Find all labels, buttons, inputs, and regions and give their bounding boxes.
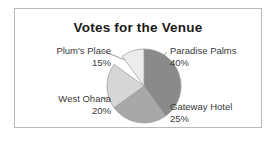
pie-label-west-ohana-name: West Ohana <box>17 93 111 105</box>
pie-label-gateway-hotel-name: Gateway Hotel <box>170 101 262 113</box>
pie-label-paradise-palms-name: Paradise Palms <box>170 45 262 57</box>
pie-label-west-ohana: West Ohana 20% <box>17 93 111 116</box>
pie-label-west-ohana-value: 20% <box>17 105 111 117</box>
pie-label-paradise-palms: Paradise Palms 40% <box>170 45 262 68</box>
pie-label-plums-place-name: Plum's Place <box>25 45 111 57</box>
pie-label-gateway-hotel: Gateway Hotel 25% <box>170 101 262 124</box>
pie-label-paradise-palms-value: 40% <box>170 57 262 69</box>
chart-card: Votes for the Venue Plum's Place 15% Wes… <box>14 8 262 128</box>
pie-label-gateway-hotel-value: 25% <box>170 113 262 125</box>
pie-label-plums-place-value: 15% <box>25 57 111 69</box>
pie-label-plums-place: Plum's Place 15% <box>25 45 111 68</box>
